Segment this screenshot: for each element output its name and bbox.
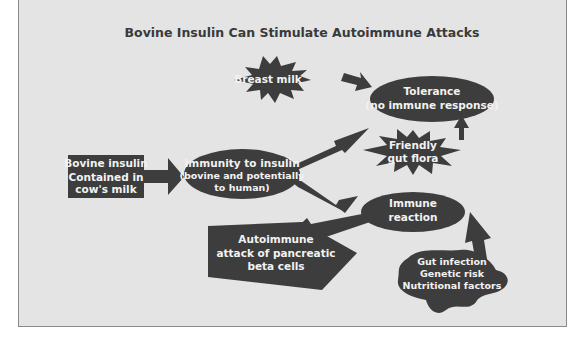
- arrow-right-icon: [143, 158, 184, 195]
- node-label: Tolerance: [404, 85, 461, 97]
- arrow-down-right-icon: [341, 72, 372, 91]
- node-immune-reaction: Immune reaction: [361, 192, 465, 232]
- node-label: Bovine insulin: [64, 157, 147, 169]
- edge-immunity-to-tolerance: [294, 128, 369, 170]
- node-risk-factors: Gut infection Genetic risk Nutritional f…: [398, 250, 508, 313]
- node-label: Nutritional factors: [403, 280, 502, 291]
- node-breast-milk: Breast milk: [234, 56, 311, 103]
- node-label: Breast milk: [234, 73, 302, 85]
- arrow-down-right-icon: [293, 178, 358, 213]
- diagram-canvas: Bovine Insulin Can Stimulate Autoimmune …: [0, 0, 586, 339]
- edge-immunity-to-immune-reaction: [293, 178, 358, 213]
- node-label: attack of pancreatic: [216, 247, 335, 259]
- node-tolerance: Tolerance (no immune response): [365, 76, 498, 122]
- node-label: beta cells: [247, 260, 304, 272]
- node-immunity: Immunity to insulin (bovine and potentia…: [180, 149, 306, 199]
- edge-bovine-to-immunity: [143, 158, 184, 195]
- edge-breastmilk-to-tolerance: [341, 72, 372, 91]
- node-label: Autoimmune: [238, 233, 313, 245]
- node-label: Genetic risk: [420, 268, 485, 279]
- node-label: (bovine and potentially: [180, 170, 306, 181]
- node-label: Immunity to insulin: [184, 157, 299, 169]
- diagram-title: Bovine Insulin Can Stimulate Autoimmune …: [125, 25, 480, 40]
- node-gut-flora: Friendly gut flora: [363, 129, 461, 175]
- node-label: Friendly: [389, 139, 437, 151]
- node-bovine-insulin: Bovine insulin Contained in cow's milk: [64, 155, 147, 198]
- node-label: reaction: [389, 211, 438, 223]
- node-label: Gut infection: [417, 256, 487, 267]
- node-label: cow's milk: [75, 183, 137, 195]
- node-label: Immune: [389, 197, 437, 209]
- arrow-up-right-icon: [294, 128, 369, 170]
- node-label: (no immune response): [365, 99, 498, 111]
- node-label: Contained in: [69, 171, 144, 183]
- node-label: gut flora: [388, 152, 439, 164]
- node-label: to human): [214, 182, 269, 193]
